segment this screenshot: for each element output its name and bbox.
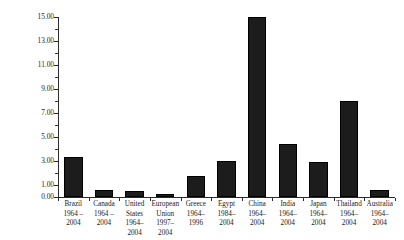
y-tick-label: 5.00 xyxy=(24,133,54,141)
y-tick-label: 7.00 xyxy=(24,109,54,117)
bar xyxy=(370,190,388,197)
y-tick-label: 9.00 xyxy=(24,85,54,93)
x-category-label-line: Australia xyxy=(360,200,399,210)
y-tick-label: 11.00 xyxy=(24,61,54,69)
x-category-label-line: 2004 xyxy=(146,229,185,239)
y-tick-label: 0.00 xyxy=(24,193,54,201)
bar xyxy=(309,162,327,197)
bar xyxy=(156,194,174,197)
x-category-label-line: 2004 xyxy=(360,219,399,229)
bar xyxy=(340,101,358,197)
plot-area xyxy=(58,0,395,198)
y-tick-label: 1.00 xyxy=(24,181,54,189)
x-axis-category-labels: Brazil1964 –2004Canada1964 –2004UnitedSt… xyxy=(58,200,395,240)
y-tick-label: 15.00 xyxy=(24,13,54,21)
bar xyxy=(217,161,235,197)
bar xyxy=(125,191,143,197)
bar xyxy=(64,157,82,197)
bar xyxy=(187,176,205,197)
x-category-label-line: 1964– xyxy=(360,210,399,220)
bar xyxy=(248,17,266,197)
y-axis-tick-labels: 0.001.003.005.007.009.0011.0013.0015.00 xyxy=(24,0,54,240)
y-tick-label: 13.00 xyxy=(24,37,54,45)
bar xyxy=(279,144,297,197)
x-category-label: Australia1964–2004 xyxy=(360,200,399,229)
bar-chart-figure: Ratio of 2004 to Past Consumption (1=no … xyxy=(0,0,404,240)
bar xyxy=(95,190,113,197)
y-tick-label: 3.00 xyxy=(24,157,54,165)
